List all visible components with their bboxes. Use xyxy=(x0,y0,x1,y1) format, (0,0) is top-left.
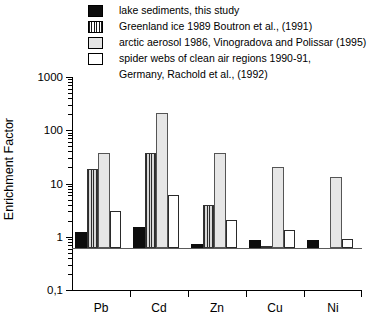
bar-pb-series4 xyxy=(110,211,122,248)
enrichment-factor-chart: lake sediments, this study Greenland ice… xyxy=(0,0,377,324)
legend-label-greenland-ice: Greenland ice 1989 Boutron et al., (1991… xyxy=(119,20,312,33)
bar-baseline xyxy=(72,248,362,249)
x-tick-label-cd: Cd xyxy=(151,301,166,315)
y-tick-major xyxy=(66,184,73,185)
y-tick-minor xyxy=(68,189,73,190)
y-tick-minor xyxy=(68,98,73,99)
y-tick-minor xyxy=(68,79,73,80)
bar-pb-series3 xyxy=(98,153,110,248)
bar-zn-series4 xyxy=(226,220,238,248)
y-tick-minor xyxy=(68,253,73,254)
x-tick xyxy=(304,290,305,297)
y-tick-minor xyxy=(68,239,73,240)
bar-ni-series3 xyxy=(330,177,342,248)
y-tick-label: 0,1 xyxy=(47,284,63,296)
y-tick-minor xyxy=(68,142,73,143)
x-tick xyxy=(188,290,189,297)
legend-label-spider-webs: spider webs of clean air regions 1990-91… xyxy=(119,52,311,65)
legend-label-arctic-aerosol: arctic aerosol 1986, Vinogradova and Pol… xyxy=(119,36,366,49)
x-tick-label-pb: Pb xyxy=(94,301,109,315)
x-tick xyxy=(130,290,131,297)
y-tick-minor xyxy=(68,192,73,193)
y-tick-minor xyxy=(68,133,73,134)
y-axis-title: Enrichment Factor xyxy=(2,118,16,220)
y-tick-minor xyxy=(68,211,73,212)
y-tick-minor xyxy=(68,265,73,266)
legend-swatch-solid-black-icon xyxy=(88,5,103,17)
bar-zn-series2 xyxy=(203,205,215,248)
y-tick-minor xyxy=(68,93,73,94)
legend-item-arctic-aerosol: arctic aerosol 1986, Vinogradova and Pol… xyxy=(88,36,373,52)
legend-item-lake-sediments: lake sediments, this study xyxy=(88,4,373,20)
y-tick-minor xyxy=(68,274,73,275)
y-tick-minor xyxy=(68,105,73,106)
x-tick-label-cu: Cu xyxy=(267,301,282,315)
y-tick-major xyxy=(66,290,73,291)
bar-cd-series3 xyxy=(156,113,168,248)
y-tick-minor xyxy=(68,82,73,83)
plot-area: 10001001010,1 PbCdZnCuNi xyxy=(72,77,362,290)
legend-swatch-vertical-striped-icon xyxy=(88,21,103,33)
y-tick-minor xyxy=(68,258,73,259)
x-tick xyxy=(361,290,362,297)
bar-cd-series1 xyxy=(133,227,145,248)
legend-item-greenland-ice: Greenland ice 1989 Boutron et al., (1991… xyxy=(88,20,373,36)
y-tick-minor xyxy=(68,138,73,139)
y-tick-major xyxy=(66,77,73,78)
x-tick-label-zn: Zn xyxy=(210,301,224,315)
y-tick-major xyxy=(66,130,73,131)
bar-ni-series4 xyxy=(342,239,354,248)
legend-swatch-white-icon xyxy=(88,53,103,65)
x-tick-label-ni: Ni xyxy=(327,301,338,315)
bar-cu-series2 xyxy=(261,246,273,248)
y-tick-minor xyxy=(68,242,73,243)
bar-pb-series2 xyxy=(87,169,99,248)
y-tick-minor xyxy=(68,186,73,187)
y-tick-minor xyxy=(68,245,73,246)
y-tick-minor xyxy=(68,114,73,115)
bar-cu-series4 xyxy=(284,230,296,248)
y-tick-minor xyxy=(68,146,73,147)
y-tick-label: 10 xyxy=(50,178,63,190)
legend-swatch-light-gray-icon xyxy=(88,37,103,49)
y-tick-label: 1000 xyxy=(37,71,63,83)
bar-zn-series1 xyxy=(191,244,203,248)
bar-cd-series4 xyxy=(168,195,180,248)
chart-legend: lake sediments, this study Greenland ice… xyxy=(88,4,373,81)
x-tick xyxy=(246,290,247,297)
y-tick-minor xyxy=(68,195,73,196)
y-tick-label: 1 xyxy=(57,231,63,243)
bar-ni-series1 xyxy=(307,240,319,248)
y-tick-minor xyxy=(68,85,73,86)
y-tick-minor xyxy=(68,135,73,136)
y-tick-minor xyxy=(68,249,73,250)
bar-cu-series1 xyxy=(249,240,261,248)
legend-item-spider-webs: spider webs of clean air regions 1990-91… xyxy=(88,52,373,68)
legend-label-lake-sediments: lake sediments, this study xyxy=(119,4,239,17)
y-tick-minor xyxy=(68,158,73,159)
y-tick-minor xyxy=(68,167,73,168)
x-axis-line xyxy=(72,290,362,291)
bar-cd-series2 xyxy=(145,153,157,248)
y-tick-minor xyxy=(68,89,73,90)
y-tick-major xyxy=(66,237,73,238)
bar-cu-series3 xyxy=(272,167,284,248)
y-tick-minor xyxy=(68,151,73,152)
bar-zn-series3 xyxy=(214,153,226,248)
y-tick-minor xyxy=(68,200,73,201)
bar-pb-series1 xyxy=(75,232,87,248)
y-tick-label: 100 xyxy=(44,124,63,136)
y-tick-minor xyxy=(68,221,73,222)
y-tick-minor xyxy=(68,205,73,206)
